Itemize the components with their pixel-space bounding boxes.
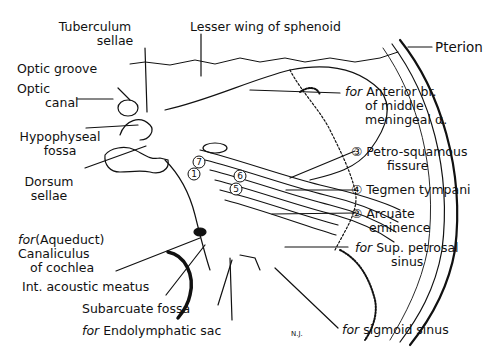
number-2: ②: [351, 206, 362, 221]
anatomical-diagram: 7 1 6 5 Tuberculum sellae Lesser wing of…: [0, 0, 500, 352]
label-line: sellae: [45, 34, 145, 48]
label-for: for: [345, 84, 362, 99]
label-arcuate-eminence: ② Arcuate eminence: [351, 207, 430, 235]
label-line: Optic: [17, 82, 79, 96]
label-line: sellae: [14, 189, 84, 203]
label-line: sigmoid sinus: [363, 322, 448, 337]
label-line: Tuberculum: [45, 20, 145, 34]
marker-6: 6: [237, 171, 243, 181]
label-lesser-wing: Lesser wing of sphenoid: [190, 20, 341, 34]
label-line: Hypophyseal: [10, 130, 110, 144]
number-4: ④: [351, 182, 362, 197]
label-line: (Aqueduct): [35, 232, 104, 247]
label-tuberculum-sellae: Tuberculum sellae: [45, 20, 145, 48]
number-3: ③: [351, 144, 362, 159]
label-subarcuate-fossa: Subarcuate fossa: [82, 302, 190, 316]
label-sigmoid-sinus: for sigmoid sinus: [342, 323, 449, 337]
label-line: eminence: [351, 221, 430, 235]
marker-7: 7: [196, 157, 202, 167]
label-for: for: [355, 240, 372, 255]
label-line: fissure: [351, 159, 467, 173]
label-tegmen-tympani: ④ Tegmen tympani: [351, 183, 471, 197]
label-endolymphatic-sac: for Endolymphatic sac: [82, 324, 221, 338]
label-optic-canal: Optic canal: [17, 82, 79, 110]
label-pterion: Pterion: [435, 40, 483, 54]
label-int-acoustic-meatus: Int. acoustic meatus: [22, 280, 149, 294]
label-dorsum-sellae: Dorsum sellae: [14, 175, 84, 203]
artist-initials: N.J.: [291, 327, 303, 341]
label-for: for: [342, 322, 359, 337]
label-line: Sup. petrosal: [376, 240, 458, 255]
marker-1: 1: [191, 169, 197, 179]
label-sup-petrosal-sinus: for Sup. petrosal sinus: [355, 241, 459, 269]
label-line: sinus: [355, 255, 459, 269]
label-for: for: [82, 323, 99, 338]
label-line: Petro-squamous: [366, 144, 467, 159]
label-canaliculus-cochlea: for(Aqueduct) Canaliculus of cochlea: [18, 233, 104, 275]
label-line: of cochlea: [18, 261, 104, 275]
label-line: of middle: [345, 99, 447, 113]
label-line: meningeal α.: [345, 113, 447, 127]
label-line: Endolymphatic sac: [103, 323, 221, 338]
label-petro-squamous-fissure: ③ Petro-squamous fissure: [351, 145, 467, 173]
label-for: for: [18, 232, 35, 247]
label-line: Canaliculus: [18, 247, 104, 261]
label-line: Anterior br.: [366, 84, 436, 99]
label-hypophyseal-fossa: Hypophyseal fossa: [10, 130, 110, 158]
label-line: canal: [17, 96, 79, 110]
label-line: Tegmen tympani: [366, 182, 470, 197]
marker-5: 5: [233, 184, 239, 194]
label-line: Arcuate: [366, 206, 414, 221]
label-line: fossa: [10, 144, 110, 158]
label-anterior-branch-meningeal: for Anterior br. of middle meningeal α.: [345, 85, 447, 127]
label-optic-groove: Optic groove: [17, 62, 97, 76]
label-line: Dorsum: [14, 175, 84, 189]
